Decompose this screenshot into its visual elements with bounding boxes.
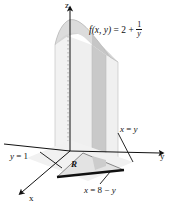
function-label-equals: = 2 + — [111, 25, 136, 35]
three-d-plot-graphic — [0, 0, 173, 210]
solid-left-wall — [55, 36, 68, 150]
region-label-R: R — [71, 160, 77, 169]
label-xy-op: = — [124, 124, 134, 134]
figure-container: f(x, y) = 2 + 1 y z y x x = y y = 1 x = … — [0, 0, 173, 210]
label-y1-val: 1 — [24, 151, 29, 161]
label-x8-op2: − — [102, 185, 112, 195]
axis-label-z: z — [65, 1, 69, 10]
solid-right-wall — [106, 55, 118, 166]
label-x8-var2: y — [112, 185, 116, 195]
solid-front-face — [92, 45, 106, 160]
axis-label-y: y — [160, 152, 165, 161]
solid-center-wall — [68, 36, 92, 156]
function-label-args: (x, y) — [92, 25, 112, 35]
axis-label-x: x — [29, 194, 34, 203]
function-label: f(x, y) = 2 + 1 y — [89, 22, 142, 40]
label-y1-op: = — [14, 151, 24, 161]
function-label-fraction: 1 y — [136, 21, 142, 39]
label-line-y-equals-1: y = 1 — [10, 152, 28, 161]
label-x8-op1: = — [88, 185, 98, 195]
label-line-x-equals-y: x = y — [120, 125, 138, 134]
label-line-x-equals-8-minus-y: x = 8 − y — [84, 186, 116, 195]
label-xy-var2: y — [134, 124, 138, 134]
solid-front-face-shape — [92, 45, 106, 160]
fraction-denominator: y — [136, 29, 142, 38]
fraction-numerator: 1 — [136, 21, 142, 29]
